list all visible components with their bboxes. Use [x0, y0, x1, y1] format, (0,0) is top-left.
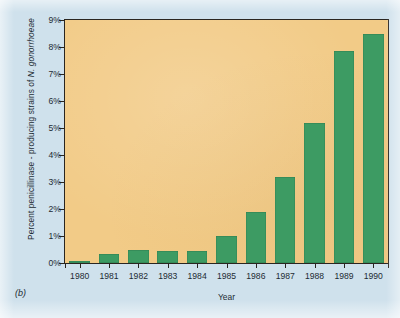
y-axis-tick-label: 1%	[49, 231, 61, 241]
bar	[99, 254, 120, 263]
x-axis-tick-label: 1987	[276, 271, 295, 281]
x-axis-tick	[197, 263, 198, 268]
bar	[187, 251, 208, 263]
y-axis-title: Percent penicillinase - producing strain…	[26, 4, 36, 254]
x-axis-tick-label: 1982	[129, 271, 148, 281]
x-axis-tick-label: 1980	[70, 271, 89, 281]
y-axis-tick-label: 0%	[49, 258, 61, 268]
y-axis-tick-label: 3%	[49, 177, 61, 187]
bar	[246, 212, 267, 263]
bar	[216, 236, 237, 263]
y-axis-tick-label: 5%	[49, 123, 61, 133]
plot-area: 0%1%2%3%4%5%6%7%8%9% 1980198119821983198…	[64, 19, 389, 264]
y-axis-tick-label: 7%	[49, 69, 61, 79]
bar	[128, 250, 149, 263]
y-axis-tick-label: 9%	[49, 15, 61, 25]
x-axis-tick-label: 1984	[188, 271, 207, 281]
x-axis-tick	[109, 263, 110, 268]
bar	[304, 123, 325, 263]
figure-panel: Percent penicillinase - producing strain…	[0, 0, 400, 318]
x-axis-tick-label: 1989	[334, 271, 353, 281]
x-axis-tick-label: 1981	[99, 271, 118, 281]
x-axis-tick-label: 1985	[217, 271, 236, 281]
y-axis-tick-label: 4%	[49, 150, 61, 160]
x-axis-tick-label: 1986	[246, 271, 265, 281]
x-axis-tick-label: 1988	[305, 271, 324, 281]
x-axis-tick	[138, 263, 139, 268]
y-axis-tick-label: 6%	[49, 96, 61, 106]
bar-series	[65, 20, 388, 263]
bar	[157, 251, 178, 263]
bar	[334, 51, 355, 263]
bar	[275, 177, 296, 263]
x-axis-tick	[80, 263, 81, 268]
x-axis-tick	[227, 263, 228, 268]
y-axis-tick-label: 2%	[49, 204, 61, 214]
panel-letter: (b)	[15, 288, 26, 298]
x-axis-tick	[285, 263, 286, 268]
x-axis-title: Year	[64, 292, 389, 302]
x-axis-tick	[256, 263, 257, 268]
y-axis-title-prefix: Percent penicillinase - producing strain…	[26, 77, 36, 240]
x-axis-tick	[373, 263, 374, 268]
bar	[69, 261, 90, 263]
x-axis-tick	[344, 263, 345, 268]
x-axis-tick	[315, 263, 316, 268]
x-axis-tick-label: 1990	[364, 271, 383, 281]
x-axis-tick	[168, 263, 169, 268]
x-axis-start-tick	[65, 263, 66, 268]
x-axis-end-tick	[388, 263, 389, 268]
x-axis-tick-label: 1983	[158, 271, 177, 281]
bar	[363, 34, 384, 264]
y-axis-tick-label: 8%	[49, 42, 61, 52]
y-axis-title-species: N. gonorrhoeae	[26, 18, 36, 77]
